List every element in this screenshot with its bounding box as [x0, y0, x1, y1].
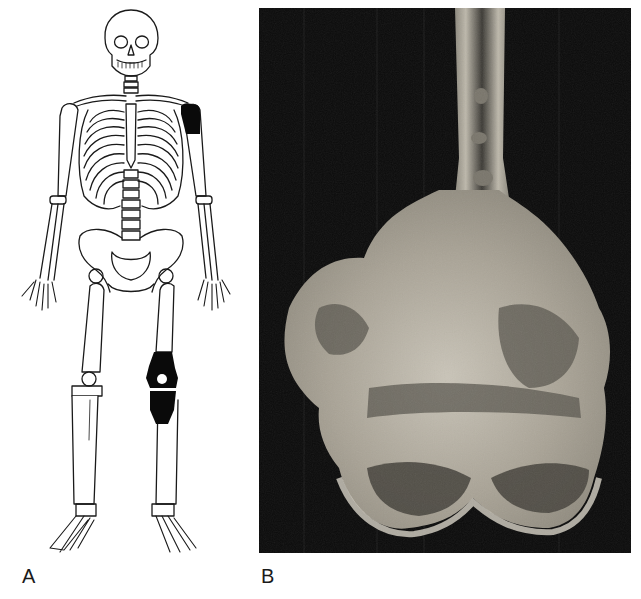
panel-label-b: B	[261, 566, 274, 586]
pelvis	[79, 229, 183, 292]
arm-right	[22, 104, 78, 310]
ribcage	[79, 104, 183, 209]
femur-specimen-image	[259, 8, 631, 553]
leg-right	[50, 283, 104, 552]
arm-left	[184, 104, 230, 310]
gross-specimen-photo	[259, 8, 631, 553]
cervical-spine	[124, 76, 138, 93]
skeleton-illustration	[0, 0, 250, 560]
skeleton-diagram-panel	[0, 0, 250, 560]
skull	[105, 10, 158, 76]
panel-label-a: A	[22, 566, 35, 586]
lesion-proximal-humerus	[181, 103, 200, 134]
lumbar-spine	[122, 170, 140, 240]
